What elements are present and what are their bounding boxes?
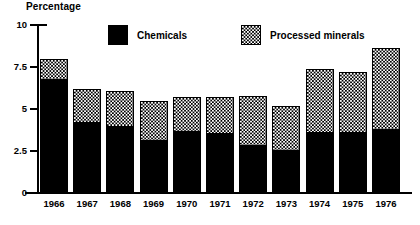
bar-segment-processed-minerals xyxy=(174,98,200,132)
bar-segment-chemicals xyxy=(273,150,299,192)
bar-segment-processed-minerals xyxy=(373,49,399,131)
bar-1976 xyxy=(372,48,400,193)
bar-segment-chemicals xyxy=(373,129,399,192)
bar-1966 xyxy=(40,59,68,193)
bar-segment-chemicals xyxy=(74,122,100,192)
bar-segment-processed-minerals xyxy=(207,98,233,135)
bar-segment-processed-minerals xyxy=(273,107,299,152)
y-tick-label-wrap: 5 xyxy=(0,103,27,115)
bar-chart: Percentage 107.552.50 196619671968196919… xyxy=(0,0,420,225)
bar-segment-chemicals xyxy=(240,145,266,192)
bar-1970 xyxy=(173,97,201,193)
legend-label-processed-minerals: Processed minerals xyxy=(270,30,365,41)
y-tick-label-wrap: 2.5 xyxy=(0,145,27,157)
y-axis-top-cap xyxy=(37,24,47,26)
solid-black-square-icon xyxy=(108,25,128,45)
bar-1967 xyxy=(73,89,101,193)
y-tick-label-wrap: 0 xyxy=(0,187,27,199)
y-tick-mark xyxy=(30,150,38,152)
x-axis-label-1976: 1976 xyxy=(366,198,406,209)
bar-1972 xyxy=(239,96,267,193)
bar-segment-chemicals xyxy=(107,126,133,192)
bar-1973 xyxy=(272,106,300,193)
bar-segment-chemicals xyxy=(174,131,200,192)
bar-segment-processed-minerals xyxy=(74,90,100,124)
bar-segment-chemicals xyxy=(207,133,233,192)
bar-segment-chemicals xyxy=(307,132,333,192)
legend: Chemicals Processed minerals xyxy=(108,24,365,46)
bar-segment-chemicals xyxy=(41,79,67,192)
bar-segment-chemicals xyxy=(141,140,167,192)
y-tick-label: 5 xyxy=(22,103,27,114)
bar-segment-processed-minerals xyxy=(41,60,67,82)
y-tick-mark xyxy=(30,66,38,68)
legend-label-chemicals: Chemicals xyxy=(137,30,187,41)
y-tick-mark xyxy=(30,192,38,194)
y-tick-mark xyxy=(30,108,38,110)
bar-segment-processed-minerals xyxy=(107,92,133,129)
y-tick-mark xyxy=(30,24,38,26)
y-tick-label-wrap: 10 xyxy=(0,19,27,31)
y-tick-label: 10 xyxy=(16,19,27,30)
bar-1968 xyxy=(106,91,134,193)
y-tick-label: 7.5 xyxy=(14,61,27,72)
bar-segment-chemicals xyxy=(340,132,366,192)
bar-segment-processed-minerals xyxy=(340,73,366,133)
legend-item-processed-minerals: Processed minerals xyxy=(241,25,365,45)
bar-1974 xyxy=(306,69,334,193)
bar-1969 xyxy=(140,101,168,193)
y-axis-title: Percentage xyxy=(26,1,81,12)
bar-1971 xyxy=(206,97,234,193)
dotted-square-icon xyxy=(241,25,261,45)
legend-item-chemicals: Chemicals xyxy=(108,25,187,45)
bar-1975 xyxy=(339,72,367,193)
y-tick-label: 0 xyxy=(22,187,27,198)
y-tick-label-wrap: 7.5 xyxy=(0,61,27,73)
bar-segment-processed-minerals xyxy=(141,102,167,142)
y-tick-label: 2.5 xyxy=(14,145,27,156)
bar-segment-processed-minerals xyxy=(307,70,333,134)
bar-segment-processed-minerals xyxy=(240,97,266,147)
